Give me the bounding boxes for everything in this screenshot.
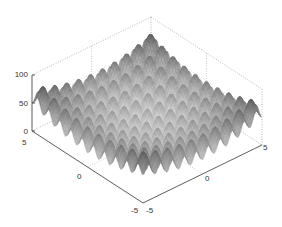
left-tick-0: 0 (77, 172, 82, 181)
left-tick-5: 5 (22, 138, 27, 147)
z-tick-0: 0 (24, 127, 29, 136)
right-tick-neg5: -5 (146, 206, 154, 215)
surface-plot: 100 50 0 5 0 -5 -5 0 5 (0, 0, 282, 227)
surface-mesh (32, 34, 262, 175)
right-tick-0: 0 (205, 174, 210, 183)
left-tick-neg5: -5 (131, 206, 139, 215)
z-tick-50: 50 (19, 99, 28, 108)
z-axis-ticks: 100 50 0 (15, 70, 29, 136)
z-tick-100: 100 (15, 70, 29, 79)
right-tick-5: 5 (263, 143, 268, 152)
